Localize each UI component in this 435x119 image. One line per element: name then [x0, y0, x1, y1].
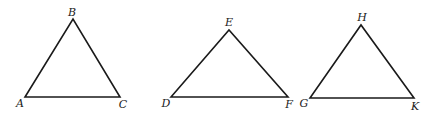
triangles-diagram: A B C D E F G H K	[0, 0, 435, 119]
triangle-def: D E F	[161, 16, 294, 111]
vertex-label-b: B	[67, 6, 76, 19]
vertex-label-k: K	[410, 100, 420, 113]
triangle-abc-outline	[25, 19, 120, 97]
vertex-label-g: G	[300, 97, 309, 110]
triangle-def-outline	[171, 30, 288, 97]
vertex-label-e: E	[224, 16, 233, 29]
diagram-svg: A B C D E F G H K	[0, 0, 435, 119]
triangle-ghk: G H K	[300, 11, 420, 113]
triangle-ghk-outline	[310, 25, 414, 98]
vertex-label-a: A	[15, 97, 24, 110]
vertex-label-f: F	[284, 98, 293, 111]
vertex-label-h: H	[356, 11, 367, 24]
triangle-abc: A B C	[15, 6, 128, 111]
vertex-label-c: C	[119, 98, 128, 111]
vertex-label-d: D	[161, 97, 171, 110]
